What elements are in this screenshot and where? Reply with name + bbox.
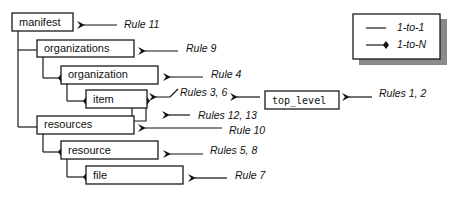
rule-label-file: Rule 7 (235, 169, 267, 181)
legend-one-to-n-label: 1-to-N (397, 38, 427, 50)
rule-label-item: Rules 3, 6 (180, 86, 227, 98)
node-organizations-label: organizations (44, 42, 110, 54)
manifest-structure-diagram: manifest organizations organization item… (0, 0, 455, 198)
node-item-label: item (93, 93, 114, 105)
node-file: file (86, 166, 183, 184)
rule-label-resources: Rule 10 (229, 124, 265, 136)
node-resources: resources (37, 116, 134, 134)
node-manifest-label: manifest (19, 16, 61, 28)
node-organizations: organizations (37, 40, 134, 57)
node-resource: resource (61, 141, 158, 159)
rule-label-top-level: Rules 1, 2 (379, 87, 426, 99)
node-top-level: top_level (265, 91, 339, 109)
rule-label-manifest: Rule 11 (124, 18, 159, 30)
node-top-level-label: top_level (272, 95, 326, 107)
legend: 1-to-1 1-to-N (353, 14, 447, 65)
node-resource-label: resource (68, 144, 111, 156)
node-organization: organization (61, 66, 158, 84)
rule-label-resource: Rules 5, 8 (210, 144, 257, 156)
rule-label-organization: Rule 4 (211, 68, 242, 80)
rule-label-organizations: Rule 9 (186, 42, 217, 54)
rule-label-item-recursion: Rules 12, 13 (198, 109, 257, 121)
node-file-label: file (93, 169, 107, 181)
arrow-left-icon (156, 89, 178, 97)
node-organization-label: organization (68, 68, 128, 80)
node-item: item (86, 90, 147, 108)
node-resources-label: resources (44, 118, 93, 130)
legend-one-to-one-label: 1-to-1 (397, 21, 424, 33)
node-manifest: manifest (12, 13, 73, 31)
